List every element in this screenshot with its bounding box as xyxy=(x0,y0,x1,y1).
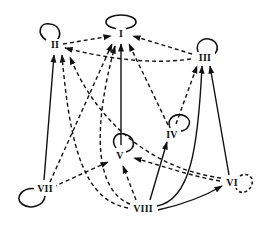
node-I: I xyxy=(119,28,123,39)
edge-VI-to-V xyxy=(134,158,220,181)
edge-IV-to-III xyxy=(176,66,197,124)
edge-VII-to-II xyxy=(44,55,54,180)
node-IV: IV xyxy=(166,129,178,140)
edge-VIII-to-IV xyxy=(150,142,167,200)
node-VIII: VIII xyxy=(133,203,153,214)
node-III: III xyxy=(199,52,211,63)
node-labels: I II III IV V VI VII VIII xyxy=(34,28,241,214)
edge-VII-to-V xyxy=(53,162,108,187)
edge-VIII-to-V xyxy=(123,166,136,200)
loop-II xyxy=(40,24,59,40)
edge-III-to-II xyxy=(65,48,191,61)
node-VII: VII xyxy=(37,183,53,194)
edge-VI-to-III xyxy=(210,66,229,175)
edge-II-to-I xyxy=(63,36,111,44)
node-V: V xyxy=(116,150,124,161)
edge-IV-to-I xyxy=(129,44,168,125)
edge-III-to-I xyxy=(133,36,192,54)
edge-VII-to-I xyxy=(50,44,112,182)
state-transition-diagram: I II III IV V VI VII VIII xyxy=(0,0,265,227)
edge-VIII-to-VI xyxy=(158,186,222,210)
edge-VIII-to-II xyxy=(62,55,128,208)
node-II: II xyxy=(51,39,59,50)
node-VI: VI xyxy=(226,177,238,188)
loop-I xyxy=(106,15,136,29)
